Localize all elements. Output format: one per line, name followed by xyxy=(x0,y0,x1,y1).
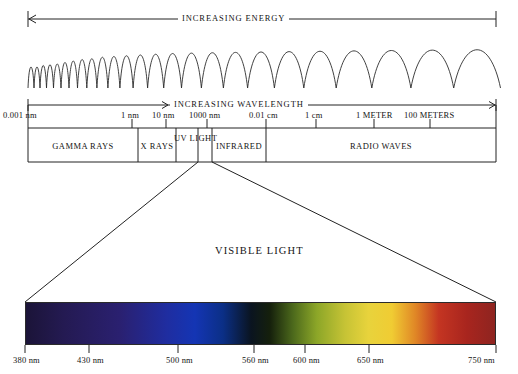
em-spectrum-figure: INCREASING ENERGY xyxy=(0,0,518,374)
spectrum-tick-650: 650 nm xyxy=(357,355,384,365)
spectrum-tick-560: 560 nm xyxy=(242,355,269,365)
spectrum-tick-600: 600 nm xyxy=(293,355,320,365)
spectrum-tick-graphic xyxy=(0,0,518,374)
spectrum-tick-750: 750 nm xyxy=(468,355,495,365)
spectrum-tick-430: 430 nm xyxy=(77,355,104,365)
spectrum-tick-380: 380 nm xyxy=(13,355,40,365)
spectrum-tick-500: 500 nm xyxy=(166,355,193,365)
